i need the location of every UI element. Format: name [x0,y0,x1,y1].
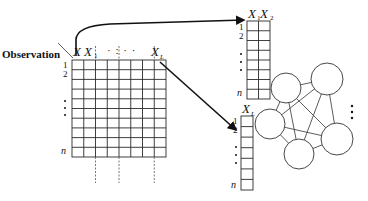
main-matrix [72,60,166,157]
main-col-label-x: X [72,44,82,59]
dashed-column-lines [96,46,155,183]
bottom-row-label-2: 2 [233,125,238,135]
top-col-label-x2: X [259,6,269,21]
top-row-label-n: n [237,87,242,98]
main-col-sub-1: 1 [94,52,98,60]
graph-node-5 [321,123,353,155]
observation-diagonal [58,43,73,58]
top-col-sub-2: 2 [270,14,274,22]
main-col-label-x1: X [83,44,93,59]
bottom-row-ellipsis [235,146,237,164]
top-col-label-x1: X [247,6,257,21]
main-row-label-2: 2 [63,69,68,79]
observation-label: Observation [2,48,60,60]
main-col-label-xl: X [150,44,160,59]
graph-node-1 [271,73,301,103]
bottom-table [241,116,253,190]
main-col-sub-l: L [159,53,164,61]
top-table [247,21,270,99]
main-col-ellipsis: · : · · [107,44,136,56]
graph-node-3 [255,109,285,139]
arrow-to-top-table [76,20,244,56]
main-row-label-n: n [61,145,66,156]
bottom-col-label-xl: X [241,101,251,116]
bottom-row-label-n: n [231,179,236,190]
top-row-ellipsis [240,53,242,71]
graph-more-ellipsis [351,105,353,119]
arrow-to-bottom-table [160,62,236,130]
graph-node-2 [311,63,343,95]
graph-node-4 [284,139,314,169]
diagram-canvas: Observation X X 1 · : · · X L 1 2 [0,0,368,201]
main-row-ellipsis [64,100,66,116]
bottom-col-sub-l: L [250,110,255,118]
top-row-label-2: 2 [239,31,244,41]
